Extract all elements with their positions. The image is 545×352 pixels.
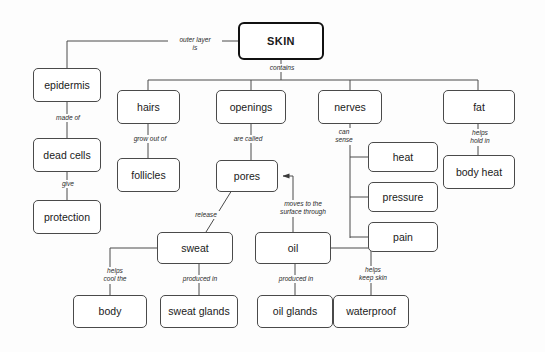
edge-label-produced-in-oil: produced in (268, 275, 324, 283)
edge-label-release: release (186, 211, 226, 219)
edge-label-give: give (52, 180, 84, 188)
node-hairs[interactable]: hairs (117, 90, 180, 124)
node-body[interactable]: body (73, 295, 147, 328)
node-epidermis[interactable]: epidermis (33, 68, 101, 102)
node-pores[interactable]: pores (216, 160, 278, 192)
node-oil-glands[interactable]: oil glands (257, 295, 333, 328)
edge-label-can-sense: can sense (328, 128, 360, 145)
edge-label-grow-out-of: grow out of (122, 135, 178, 143)
concept-map-canvas: SKIN epidermis dead cells protection hai… (0, 0, 545, 352)
node-pain[interactable]: pain (368, 222, 438, 252)
edge-label-outer-layer-is: outer layer is (168, 36, 222, 53)
node-nerves[interactable]: nerves (318, 90, 382, 124)
edge-label-are-called: are called (222, 135, 274, 143)
node-skin[interactable]: SKIN (238, 22, 324, 60)
node-fat[interactable]: fat (443, 90, 515, 124)
edge-label-produced-in-sweat: produced in (172, 275, 228, 283)
node-heat[interactable]: heat (368, 142, 438, 172)
edge-label-helps-cool-the: helps cool the (96, 267, 134, 284)
node-protection[interactable]: protection (33, 200, 101, 234)
node-oil[interactable]: oil (255, 232, 331, 264)
edge-label-contains: contains (258, 64, 306, 72)
node-pressure[interactable]: pressure (368, 182, 438, 212)
node-waterproof[interactable]: waterproof (333, 295, 409, 328)
node-follicles[interactable]: follicles (117, 158, 180, 192)
edge-label-helps-hold-in: helps hold in (461, 129, 499, 146)
edge-label-made-of: made of (44, 114, 92, 122)
edge-label-moves-to-surface: moves to the surface through (271, 200, 335, 217)
node-sweat[interactable]: sweat (157, 232, 233, 264)
node-sweat-glands[interactable]: sweat glands (160, 295, 238, 328)
edge-label-helps-keep-skin: helps keep skin (351, 266, 395, 283)
node-dead-cells[interactable]: dead cells (33, 138, 101, 172)
node-openings[interactable]: openings (216, 90, 286, 124)
node-body-heat[interactable]: body heat (443, 155, 515, 189)
